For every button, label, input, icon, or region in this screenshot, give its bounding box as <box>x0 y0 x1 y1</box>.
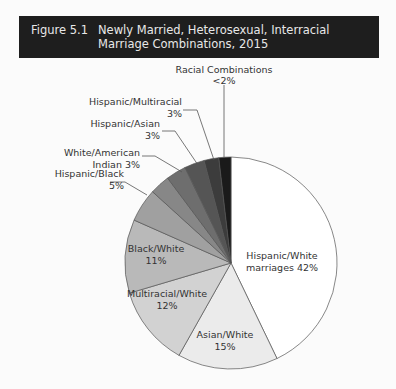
label-multiracial-white: Multiracial/White <box>127 288 207 299</box>
svg-text:3%: 3% <box>167 108 182 119</box>
label-black-white: Black/White <box>128 243 185 254</box>
label-hispanic-white: Hispanic/White <box>246 250 317 261</box>
svg-text:15%: 15% <box>214 341 235 352</box>
label-hispanic-multiracial: Hispanic/Multiracial <box>89 96 182 107</box>
svg-text:3%: 3% <box>145 130 160 141</box>
label-asian-white: Asian/White <box>197 329 254 340</box>
label-hispanic-asian: Hispanic/Asian <box>90 118 160 129</box>
svg-text:5%: 5% <box>109 180 124 191</box>
svg-text:11%: 11% <box>145 255 166 266</box>
svg-text:12%: 12% <box>156 300 177 311</box>
svg-text:<2%: <2% <box>212 75 235 86</box>
label-white-american-indian: White/American <box>64 147 140 158</box>
label-hispanic-black: Hispanic/Black <box>55 168 125 179</box>
label-racial-combinations: Racial Combinations <box>176 64 273 75</box>
svg-text:marriages 42%: marriages 42% <box>246 262 318 273</box>
pie-chart: Racial Combinations <2% Hispanic/Multira… <box>0 0 396 389</box>
